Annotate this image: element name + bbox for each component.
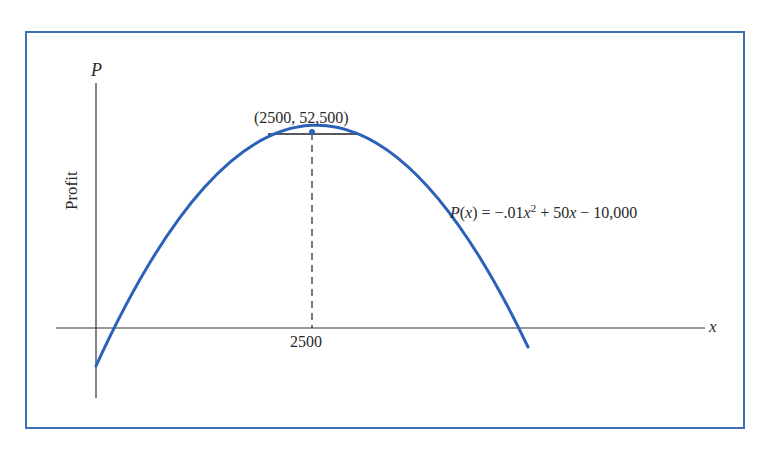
p-axis-label: P xyxy=(91,60,102,81)
vertex-point xyxy=(309,129,315,135)
x-tick-2500: 2500 xyxy=(290,333,322,351)
equation-label: P(x) = −.01x2 + 50x − 10,000 xyxy=(450,202,637,222)
chart-plot xyxy=(0,0,772,453)
profit-axis-title: Profit xyxy=(62,171,82,210)
eq-part: − 10,000 xyxy=(576,204,637,221)
x-axis-label: x xyxy=(709,317,717,337)
eq-part: + 50 xyxy=(536,204,569,221)
vertex-label: (2500, 52,500) xyxy=(254,109,349,127)
eq-part: ) = −.01 xyxy=(472,204,523,221)
eq-var: x xyxy=(524,204,531,221)
eq-p: P xyxy=(450,204,460,221)
